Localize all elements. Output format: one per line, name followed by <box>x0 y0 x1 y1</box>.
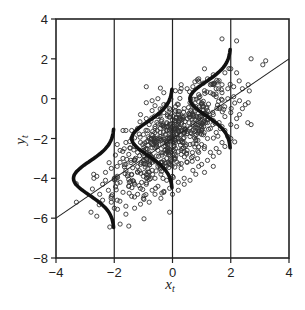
data-point <box>127 152 131 156</box>
data-point <box>178 96 182 100</box>
data-point <box>118 148 122 152</box>
data-point <box>115 198 119 202</box>
data-point <box>176 188 180 192</box>
data-point <box>205 158 209 162</box>
data-point <box>182 182 186 186</box>
data-point <box>153 192 157 196</box>
data-point <box>161 176 165 180</box>
data-point <box>90 187 94 191</box>
data-point <box>133 206 137 210</box>
data-point <box>237 99 241 103</box>
density-curve <box>74 129 114 227</box>
data-point <box>151 172 155 176</box>
x-tick-label: 4 <box>285 265 292 280</box>
data-point <box>195 157 199 161</box>
data-point <box>153 104 157 108</box>
y-tick-label: 0 <box>41 92 48 107</box>
data-point <box>103 178 107 182</box>
data-point <box>89 210 93 214</box>
data-point <box>147 200 151 204</box>
data-point <box>216 134 220 138</box>
data-point <box>115 164 119 168</box>
data-point <box>118 222 122 226</box>
data-point <box>235 117 239 121</box>
data-point <box>118 160 122 164</box>
data-point <box>191 168 195 172</box>
data-point <box>138 120 142 124</box>
data-point <box>233 140 237 144</box>
data-point <box>219 88 223 92</box>
data-point <box>124 128 128 132</box>
data-point <box>121 190 125 194</box>
data-point <box>98 192 102 196</box>
data-point <box>127 191 131 195</box>
scatter-chart: −4−2024 420−2−4−6−8 xt yt <box>0 0 305 310</box>
data-point <box>118 180 122 184</box>
data-point <box>247 89 251 93</box>
data-point <box>220 83 224 87</box>
scatter-points <box>74 37 268 229</box>
data-point <box>109 166 113 170</box>
y-tick-label: −4 <box>33 171 48 186</box>
data-point <box>194 172 198 176</box>
data-point <box>202 67 206 71</box>
data-point <box>233 101 237 105</box>
data-point <box>124 212 128 216</box>
data-point <box>124 204 128 208</box>
data-point <box>223 144 227 148</box>
data-point <box>211 136 215 140</box>
data-point <box>186 105 190 109</box>
data-point <box>127 224 131 228</box>
data-point <box>246 121 250 125</box>
data-point <box>235 39 239 43</box>
data-point <box>205 136 209 140</box>
data-point <box>220 37 224 41</box>
data-point <box>202 170 206 174</box>
data-point <box>220 140 224 144</box>
data-point <box>108 225 112 229</box>
y-tick-label: 2 <box>41 52 48 67</box>
data-point <box>150 109 154 113</box>
y-tick-label: −6 <box>33 211 48 226</box>
data-point <box>235 71 239 75</box>
data-point <box>162 91 166 95</box>
data-point <box>103 170 107 174</box>
data-point <box>249 57 253 61</box>
data-point <box>223 105 227 109</box>
data-point <box>235 125 239 129</box>
data-point <box>223 115 227 119</box>
data-point <box>138 202 142 206</box>
data-point <box>264 59 268 63</box>
data-point <box>240 107 244 111</box>
data-point <box>223 71 227 75</box>
data-point <box>173 89 177 93</box>
data-point <box>107 161 111 165</box>
data-point <box>106 188 110 192</box>
data-point <box>150 99 154 103</box>
data-point <box>156 97 160 101</box>
data-point <box>217 150 221 154</box>
data-point <box>188 178 192 182</box>
y-axis-ticks: 420−2−4−6−8 <box>33 12 56 266</box>
data-point <box>140 180 144 184</box>
x-tick-label: −2 <box>107 265 122 280</box>
data-point <box>144 85 148 89</box>
data-point <box>115 142 119 146</box>
data-point <box>214 146 218 150</box>
data-point <box>136 165 140 169</box>
data-point <box>168 210 172 214</box>
data-point <box>237 79 241 83</box>
y-tick-label: −2 <box>33 132 48 147</box>
data-point <box>182 155 186 159</box>
y-tick-label: 4 <box>41 12 48 27</box>
data-point <box>208 150 212 154</box>
y-axis-label: yt <box>12 135 30 147</box>
data-point <box>95 214 99 218</box>
data-point <box>159 196 163 200</box>
data-point <box>132 195 136 199</box>
x-tick-label: 2 <box>227 265 234 280</box>
data-point <box>176 180 180 184</box>
data-point <box>237 113 241 117</box>
data-point <box>144 101 148 105</box>
y-tick-label: −8 <box>33 251 48 266</box>
